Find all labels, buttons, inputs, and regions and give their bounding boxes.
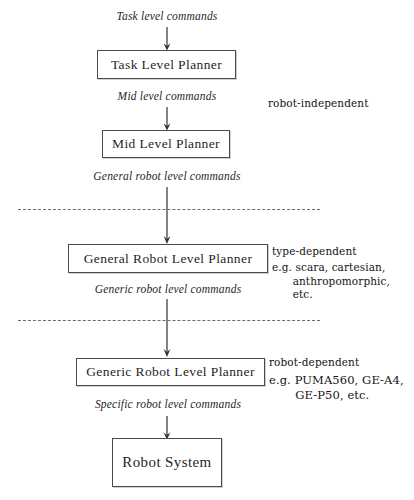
flow-label-mid-level-commands: Mid level commands <box>107 90 227 102</box>
flow-label-task-level-commands: Task level commands <box>107 10 227 22</box>
arrow-to-general-planner <box>160 187 174 245</box>
flow-diagram: Task level commands Task Level Planner M… <box>0 0 414 500</box>
flow-label-general-robot-level-commands: General robot level commands <box>83 170 251 182</box>
node-generic-robot-level-planner[interactable]: Generic Robot Level Planner <box>76 358 265 386</box>
arrow-to-generic-planner <box>160 299 174 358</box>
node-general-robot-level-planner[interactable]: General Robot Level Planner <box>68 244 268 273</box>
side-note-robot-independent: robot-independent <box>268 97 369 111</box>
side-note-robot-dependent-examples: e.g. PUMA560, GE-A4, GE-P50, etc. <box>269 373 404 402</box>
flow-label-specific-robot-level-commands: Specific robot level commands <box>86 398 250 410</box>
separator-lower <box>18 320 320 321</box>
node-robot-system[interactable]: Robot System <box>112 438 222 487</box>
arrow-to-robot-system <box>160 416 174 440</box>
flow-label-generic-robot-level-commands: Generic robot level commands <box>86 283 250 295</box>
side-note-type-dependent-examples: e.g. scara, cartesian, anthropomorphic, … <box>272 261 390 302</box>
side-note-robot-dependent-heading: robot-dependent <box>269 356 359 370</box>
side-note-type-dependent-heading: type-dependent <box>272 245 357 259</box>
arrow-to-mid-planner <box>160 107 174 131</box>
separator-upper <box>18 209 320 210</box>
node-task-level-planner[interactable]: Task Level Planner <box>97 50 236 79</box>
arrow-to-task-planner <box>160 27 174 51</box>
node-mid-level-planner[interactable]: Mid Level Planner <box>102 130 230 158</box>
